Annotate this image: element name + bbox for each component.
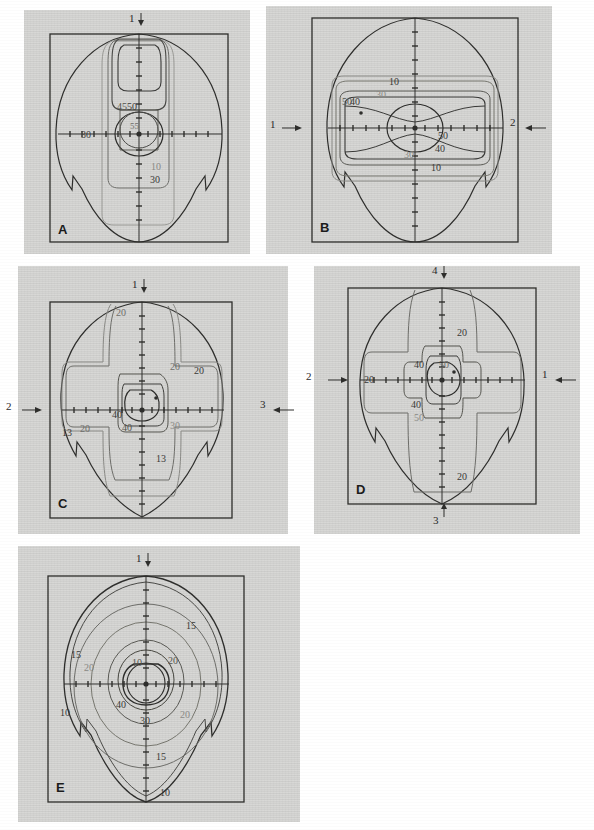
- panel-d-axis-marker-top: 4: [432, 264, 438, 276]
- panel-a-letter: A: [58, 222, 67, 237]
- panel-c-axis-marker-top: 1: [132, 278, 138, 290]
- contour-label: 10: [132, 657, 142, 668]
- panel-d-plot: 20 20 50 40 40 50 20: [314, 266, 580, 534]
- contour-label: 15: [186, 620, 196, 631]
- panel-c: 20 20 20 13 20 40 40 30 13 C 1 2 3: [18, 266, 288, 534]
- panel-d-axis-marker-bottom: 3: [433, 514, 439, 526]
- contour-label: 50: [127, 101, 137, 112]
- contour-label: 30: [81, 129, 91, 140]
- panel-a-axis-marker-top: 1: [129, 12, 135, 24]
- contour-label: 40: [411, 399, 421, 410]
- panel-e-axis-marker-top: 1: [136, 552, 142, 564]
- panel-d-axis-arrow-right: [552, 375, 578, 385]
- panel-c-axis-arrow-left: [22, 405, 44, 415]
- contour-label: 10: [60, 707, 70, 718]
- panel-e: 15 15 20 20 10 10 40 30 15 20 10 E 1: [18, 546, 300, 822]
- panel-d-letter: D: [356, 482, 365, 497]
- contour-label: 50: [414, 412, 424, 423]
- contour-label: 40: [112, 409, 122, 420]
- contour-label: 20: [116, 307, 126, 318]
- panel-d-blind-spot-mark: [452, 370, 456, 374]
- panel-b-axis-arrow-right: [522, 123, 548, 133]
- panel-d-axis-arrow-bottom: [441, 502, 453, 518]
- contour-label: 10: [151, 161, 161, 172]
- panel-b-blind-spot-mark: [359, 111, 363, 115]
- panel-d-axis-arrow-left: [328, 375, 350, 385]
- panel-a-axis-arrow-top: [138, 13, 150, 27]
- contour-label: 20: [364, 374, 374, 385]
- panel-d: 20 20 50 40 40 50 20 D 4 3 2 1: [314, 266, 580, 534]
- contour-label: 13: [156, 453, 166, 464]
- panel-d-axis-marker-right: 1: [542, 368, 548, 380]
- panel-c-fixation-point: [139, 407, 144, 412]
- panel-c-axis-marker-right: 3: [260, 398, 266, 410]
- contour-label: 30: [170, 420, 180, 431]
- panel-b-axis-marker-left: 1: [270, 118, 276, 130]
- panel-e-fixation-point: [143, 681, 148, 686]
- panel-c-plot: 20 20 20 13 20 40 40 30 13: [18, 266, 288, 534]
- contour-label: 30: [140, 715, 150, 726]
- contour-label: 20: [170, 361, 180, 372]
- panel-e-axis-arrow-top: [145, 553, 157, 569]
- contour-label: 55: [130, 121, 140, 131]
- contour-label: 13: [62, 427, 72, 438]
- panel-b-plot: 10 30 50 40 50 40 30 10: [266, 6, 552, 254]
- panel-e-letter: E: [56, 780, 65, 795]
- panel-b-axis-arrow-left: [282, 123, 304, 133]
- contour-label: 10: [160, 787, 170, 798]
- contour-label: 20: [80, 423, 90, 434]
- panel-d-axis-arrow-top: [441, 266, 453, 280]
- contour-label: 10: [389, 76, 399, 87]
- contour-label: 20: [180, 709, 190, 720]
- panel-d-fixation-point: [439, 377, 444, 382]
- panel-c-letter: C: [58, 496, 67, 511]
- panel-d-axis-marker-left: 2: [306, 370, 312, 382]
- contour-label: 50: [438, 130, 448, 141]
- panel-c-axis-arrow-right: [270, 405, 296, 415]
- panel-b-axis-marker-right: 2: [510, 116, 516, 128]
- contour-label: 15: [156, 751, 166, 762]
- panel-a-plot: 45 50 30 55 10 30: [24, 10, 250, 254]
- contour-label: 50: [439, 359, 449, 370]
- panel-c-axis-marker-left: 2: [6, 400, 12, 412]
- contour-label: 45: [117, 101, 127, 112]
- contour-label: 20: [457, 471, 467, 482]
- contour-label: 10: [431, 162, 441, 173]
- contour-label: 20: [194, 365, 204, 376]
- panel-b-letter: B: [320, 220, 329, 235]
- contour-label: 15: [71, 649, 81, 660]
- contour-label: 40: [350, 96, 360, 107]
- panel-b: 10 30 50 40 50 40 30 10 B 1 2: [266, 6, 552, 254]
- panel-c-blind-spot-mark: [154, 396, 158, 400]
- contour-label: 30: [376, 89, 386, 100]
- contour-label: 40: [435, 143, 445, 154]
- contour-label: 40: [122, 422, 132, 433]
- contour-label: 20: [168, 655, 178, 666]
- panel-a: 45 50 30 55 10 30 A 1: [24, 10, 250, 254]
- contour-label: 40: [414, 359, 424, 370]
- figure-root: 45 50 30 55 10 30 A 1: [0, 0, 594, 830]
- contour-label: 20: [84, 662, 94, 673]
- panel-a-fixation-point: [136, 131, 141, 136]
- panel-c-axis-arrow-top: [141, 279, 153, 295]
- contour-label: 40: [116, 699, 126, 710]
- contour-label: 30: [404, 149, 414, 160]
- contour-label: 30: [150, 174, 160, 185]
- panel-b-fixation-point: [412, 125, 417, 130]
- contour-label: 20: [457, 327, 467, 338]
